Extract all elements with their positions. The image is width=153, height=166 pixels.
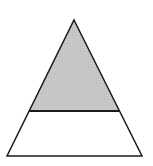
pyramid-diagram bbox=[0, 0, 153, 166]
triangle-top-shaded-region bbox=[29, 20, 119, 111]
diagram-canvas bbox=[0, 0, 153, 166]
triangle-bottom-region bbox=[7, 111, 142, 156]
